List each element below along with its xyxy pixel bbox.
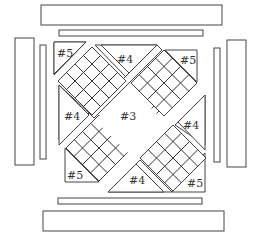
outer-border-left	[15, 38, 34, 165]
inner-border-right	[214, 48, 220, 162]
inner-border-bottom	[58, 198, 202, 204]
label-corner-top-right: #5	[180, 54, 196, 67]
label-corner-bottom-right: #5	[187, 177, 203, 190]
inner-border-top	[59, 30, 203, 36]
label-corner-bottom-left: #5	[67, 169, 83, 182]
label-triangle-left: #4	[64, 110, 80, 123]
label-center-square: #3	[120, 110, 136, 123]
quilt-assembly-diagram: #5 #4 #5 #4 #3 #4 #5 #4 #5	[0, 0, 261, 241]
outer-border-top	[41, 5, 222, 25]
label-corner-top-left: #5	[57, 47, 73, 60]
label-triangle-bottom: #4	[129, 174, 145, 187]
label-triangle-right: #4	[183, 119, 199, 132]
inner-border-left	[40, 45, 46, 159]
label-triangle-top: #4	[117, 53, 133, 66]
outer-border-right	[227, 40, 246, 167]
outer-border-bottom	[43, 211, 224, 231]
